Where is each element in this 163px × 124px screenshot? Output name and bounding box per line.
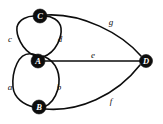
edge-label-a: a [8,82,13,92]
edge-c-path[interactable] [17,16,35,56]
node-D-label: D [142,56,149,66]
edge-label-f: f [110,96,114,106]
edge-label-c: c [8,34,12,44]
edge-label-g: g [109,17,114,27]
node-B-label: B [35,102,42,112]
edge-label-d: d [58,34,63,44]
edge-label-b: b [57,82,62,92]
graph-diagram-canvas: a b c d e f g C A B D [0,0,163,124]
node-A-label: A [34,56,41,66]
edge-label-e: e [91,50,95,60]
node-A[interactable]: A [31,54,45,68]
graph-svg: a b c d e f g C A B D [0,0,163,124]
node-D[interactable]: D [140,55,153,68]
node-C-label: C [37,11,43,21]
node-B[interactable]: B [32,100,46,114]
node-C[interactable]: C [33,9,47,23]
